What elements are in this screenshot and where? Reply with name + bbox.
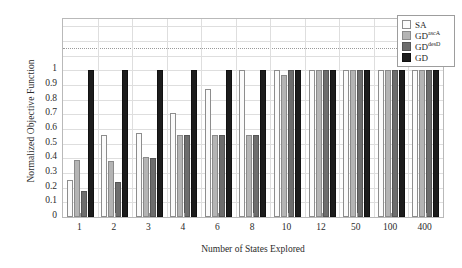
y-tick-label: 0	[31, 210, 57, 220]
bar-gd-asca-1	[74, 160, 80, 217]
bar-sa-100	[378, 70, 384, 217]
bar-gd-1	[88, 70, 94, 217]
bar-gd-asca-400	[419, 70, 425, 217]
x-axis-title: Number of States Explored	[62, 244, 444, 254]
x-tick-mark	[218, 213, 219, 217]
x-tick-mark	[253, 213, 254, 217]
legend-item-gd[interactable]: GD	[402, 52, 451, 63]
bar-gd-4	[191, 70, 197, 217]
bar-gd-desd-6	[219, 135, 225, 217]
legend-item-gdasca[interactable]: GDascA	[402, 30, 451, 41]
bar-sa-400	[412, 70, 418, 217]
y-tick-label: 0.3	[31, 166, 57, 176]
x-tick-mark	[80, 213, 81, 217]
legend-swatch-sa	[402, 20, 411, 29]
bar-sa-8	[239, 70, 245, 217]
y-tick-label: 0.7	[31, 107, 57, 117]
bar-gd-asca-2	[108, 161, 114, 217]
legend-swatch-asca	[402, 31, 411, 40]
bar-sa-1	[67, 180, 73, 217]
y-tick-label: 0.1	[31, 195, 57, 205]
bar-gd-400	[433, 70, 439, 217]
x-tick-mark	[391, 213, 392, 217]
bar-gd-2	[122, 70, 128, 217]
chart-figure: Normalized Objective Function 00.10.20.3…	[0, 0, 462, 268]
y-tick-label: 0.6	[31, 122, 57, 132]
legend-label: GD	[415, 53, 428, 63]
plot-area	[62, 18, 444, 218]
bar-gd-100	[399, 70, 405, 217]
legend-item-gddesd[interactable]: GDdesD	[402, 41, 451, 52]
x-tick-mark	[184, 213, 185, 217]
bar-gd-desd-10	[288, 70, 294, 217]
bar-gd-asca-10	[281, 75, 287, 217]
bar-gd-12	[330, 70, 336, 217]
bar-sa-50	[343, 70, 349, 217]
legend-label: GDdesD	[415, 41, 440, 52]
bar-gd-asca-8	[246, 135, 252, 217]
bar-gd-desd-2	[115, 182, 121, 217]
legend-label: SA	[415, 20, 427, 30]
y-tick-label: 0.9	[31, 78, 57, 88]
x-tick-mark	[149, 213, 150, 217]
x-tick-label: 400	[405, 222, 445, 232]
bar-gd-10	[295, 70, 301, 217]
bar-gd-asca-6	[212, 135, 218, 217]
bar-group	[339, 19, 374, 217]
legend-swatch-gd	[402, 53, 411, 62]
bar-group	[236, 19, 271, 217]
bar-gd-6	[226, 70, 232, 217]
y-tick-label: 0.2	[31, 181, 57, 191]
y-tick-label: 0.8	[31, 93, 57, 103]
bar-group	[63, 19, 98, 217]
bar-sa-2	[101, 135, 107, 217]
bar-gd-desd-400	[426, 70, 432, 217]
bar-gd-8	[260, 70, 266, 217]
legend-swatch-desd	[402, 42, 411, 51]
bar-sa-6	[205, 89, 211, 217]
bar-sa-12	[309, 70, 315, 217]
bar-group	[270, 19, 305, 217]
bar-group	[201, 19, 236, 217]
bar-gd-desd-50	[357, 70, 363, 217]
bar-group	[132, 19, 167, 217]
gridline	[63, 217, 443, 218]
bar-gd-asca-4	[177, 135, 183, 217]
bar-gd-3	[157, 70, 163, 217]
bar-gd-desd-1	[81, 191, 87, 217]
bar-gd-desd-3	[150, 158, 156, 217]
bar-gd-asca-3	[143, 157, 149, 217]
bar-group	[167, 19, 202, 217]
bar-group	[98, 19, 133, 217]
chart-legend: SAGDascAGDdesDGD	[397, 15, 455, 67]
x-tick-mark	[115, 213, 116, 217]
bar-gd-50	[364, 70, 370, 217]
bar-sa-3	[136, 133, 142, 217]
bar-gd-asca-12	[316, 70, 322, 217]
bar-gd-asca-50	[350, 70, 356, 217]
bar-gd-desd-12	[323, 70, 329, 217]
legend-label: GDascA	[415, 30, 440, 41]
bar-group	[305, 19, 340, 217]
y-tick-label: 0.4	[31, 151, 57, 161]
y-tick-label: 0.5	[31, 137, 57, 147]
bar-gd-desd-8	[253, 135, 259, 217]
x-tick-mark	[288, 213, 289, 217]
y-tick-label: 1	[31, 63, 57, 73]
bar-gd-desd-4	[184, 135, 190, 217]
bar-sa-4	[170, 113, 176, 217]
legend-item-sa[interactable]: SA	[402, 19, 451, 30]
bar-gd-asca-100	[385, 70, 391, 217]
y-axis-title: Normalized Objective Function	[26, 21, 36, 221]
x-tick-mark	[426, 213, 427, 217]
x-tick-mark	[357, 213, 358, 217]
bar-gd-desd-100	[392, 70, 398, 217]
bar-sa-10	[274, 70, 280, 217]
x-tick-mark	[322, 213, 323, 217]
